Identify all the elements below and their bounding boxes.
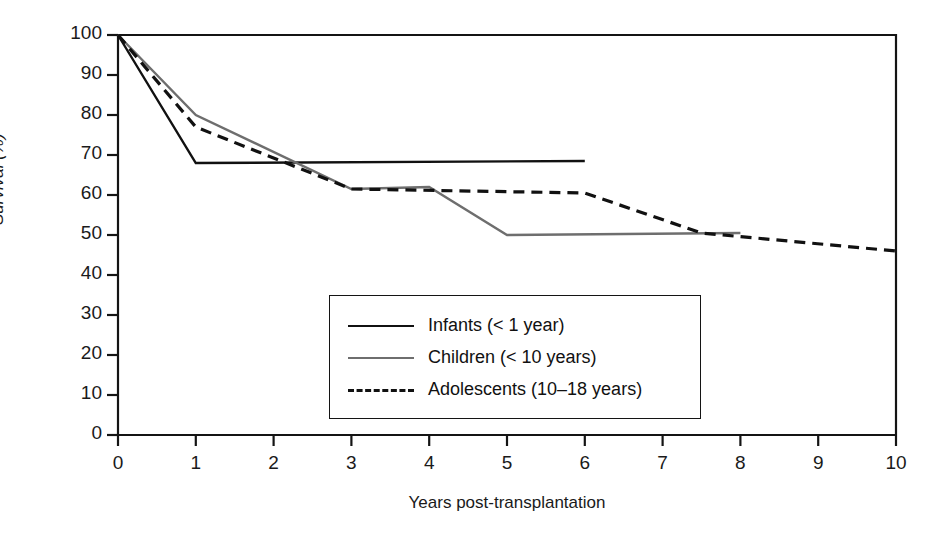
y-tick-label: 70 [40,142,102,164]
y-tick-label: 60 [40,182,102,204]
x-tick-label: 5 [477,452,537,474]
x-tick-label: 8 [710,452,770,474]
y-tick-label: 90 [40,62,102,84]
y-axis-label: Survival (%) [0,133,8,225]
legend-label: Adolescents (10–18 years) [428,379,642,400]
y-tick-label: 0 [40,422,102,444]
legend-swatch-dashed-icon [348,382,414,396]
survival-curve-figure: Survival (%) Years post-transplantation … [0,0,931,540]
legend-swatch-solid-black-icon [348,318,414,332]
legend-label: Children (< 10 years) [428,347,597,368]
y-tick-label: 40 [40,262,102,284]
x-axis-label: Years post-transplantation [409,493,606,513]
x-tick-label: 9 [788,452,848,474]
x-tick-label: 7 [633,452,693,474]
legend-item-2: Children (< 10 years) [348,341,682,373]
legend-item-1: Infants (< 1 year) [348,309,682,341]
x-tick-label: 2 [244,452,304,474]
y-tick-label: 10 [40,382,102,404]
legend: Infants (< 1 year)Children (< 10 years)A… [329,295,701,419]
series-line-3 [118,35,896,251]
legend-label: Infants (< 1 year) [428,315,565,336]
y-tick-label: 100 [40,22,102,44]
y-tick-label: 80 [40,102,102,124]
x-tick-label: 1 [166,452,226,474]
x-tick-label: 4 [399,452,459,474]
x-tick-label: 0 [88,452,148,474]
x-tick-label: 3 [321,452,381,474]
series-line-2 [118,35,740,235]
legend-item-3: Adolescents (10–18 years) [348,373,682,405]
y-tick-label: 20 [40,342,102,364]
legend-swatch-solid-gray-icon [348,350,414,364]
y-tick-label: 30 [40,302,102,324]
x-tick-label: 10 [866,452,926,474]
x-tick-label: 6 [555,452,615,474]
series-line-1 [118,35,585,163]
y-tick-label: 50 [40,222,102,244]
